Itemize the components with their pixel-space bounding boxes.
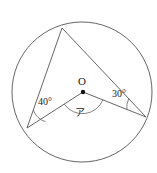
center-point-dot [81,90,85,94]
chord-top-right [62,28,146,117]
angle-label-right: 30° [112,88,126,99]
angle-arc-right [127,99,129,111]
angle-label-unknown: ア [75,107,85,118]
center-label: O [78,75,86,87]
geometry-figure: O 40° 30° ア [0,0,157,173]
angle-label-left: 40° [38,96,52,107]
geometry-canvas: O 40° 30° ア [0,0,157,173]
